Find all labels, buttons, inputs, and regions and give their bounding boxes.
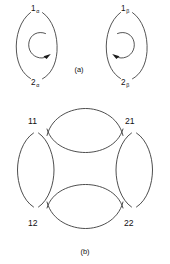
top-lens-inner-arc	[47, 129, 123, 153]
caption-a: (a)	[74, 65, 83, 74]
caption-b: (b)	[80, 247, 89, 256]
alpha-bottom-label-subscript: α	[36, 82, 39, 88]
label-11: 11	[28, 116, 37, 126]
beta-top-label-subscript: β	[126, 8, 129, 14]
left-lens-inner-arc	[39, 133, 55, 207]
lens-diagram-group: 11 21 12 22	[18, 109, 153, 229]
beta-inner-arc	[115, 32, 135, 57]
right-lens-inner-arc	[116, 133, 132, 207]
label-21: 21	[125, 116, 135, 126]
beta-arrowhead-icon	[112, 54, 119, 59]
alpha-arrowhead-icon	[44, 54, 51, 59]
beta-loop-group: 1 β 2 β	[106, 4, 147, 88]
top-lens-outer-arc	[47, 109, 123, 136]
right-lens-outer-arc	[137, 133, 153, 207]
figure-container: 1 α 2 α 1 β 2 β (a)	[0, 0, 170, 264]
alpha-outer-oval-right-arc	[43, 13, 58, 79]
alpha-top-label-subscript: α	[36, 8, 39, 14]
beta-outer-oval-left-arc	[106, 13, 120, 79]
label-12: 12	[28, 218, 38, 228]
bottom-lens-outer-arc	[47, 202, 123, 229]
bottom-lens-inner-arc	[47, 185, 123, 209]
alpha-loop-group: 1 α 2 α	[16, 4, 57, 88]
figure-svg-canvas: 1 α 2 α 1 β 2 β (a)	[0, 0, 170, 264]
alpha-inner-arc	[29, 32, 49, 57]
label-22: 22	[124, 218, 134, 228]
beta-bottom-label-subscript: β	[126, 82, 129, 88]
left-lens-outer-arc	[18, 133, 34, 207]
